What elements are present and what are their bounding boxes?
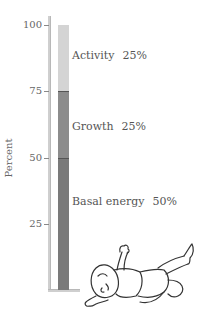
- label-activity-pct: 25%: [122, 49, 146, 62]
- segment-separator-75: [58, 91, 69, 92]
- energy-stacked-bar-chart: Percent 100 75 50 25 Activity25% Growth2…: [0, 0, 208, 314]
- bar-segment-growth: [58, 91, 69, 158]
- infant-illustration-icon: [84, 240, 204, 314]
- y-tick-label-25: 25: [16, 219, 42, 229]
- y-tick-label-100: 100: [16, 20, 42, 30]
- label-activity: Activity25%: [72, 50, 147, 62]
- stacked-bar: [58, 25, 69, 290]
- segment-separator-50: [58, 158, 69, 159]
- bar-segment-activity: [58, 25, 69, 91]
- y-axis-label: Percent: [3, 139, 14, 178]
- label-growth: Growth25%: [72, 121, 146, 133]
- label-basal-pct: 50%: [152, 195, 176, 208]
- label-activity-name: Activity: [72, 49, 114, 62]
- y-tick-50: [44, 158, 49, 159]
- bar-segment-basal-energy: [58, 158, 69, 290]
- y-tick-label-75: 75: [16, 86, 42, 96]
- y-tick-25: [44, 224, 49, 225]
- label-basal-name: Basal energy: [72, 195, 144, 208]
- y-axis-line: [48, 16, 51, 291]
- label-growth-name: Growth: [72, 120, 114, 133]
- label-basal-energy: Basal energy50%: [72, 196, 177, 208]
- y-tick-label-50: 50: [16, 153, 42, 163]
- y-tick-100: [44, 25, 49, 26]
- label-growth-pct: 25%: [122, 120, 146, 133]
- y-tick-75: [44, 91, 49, 92]
